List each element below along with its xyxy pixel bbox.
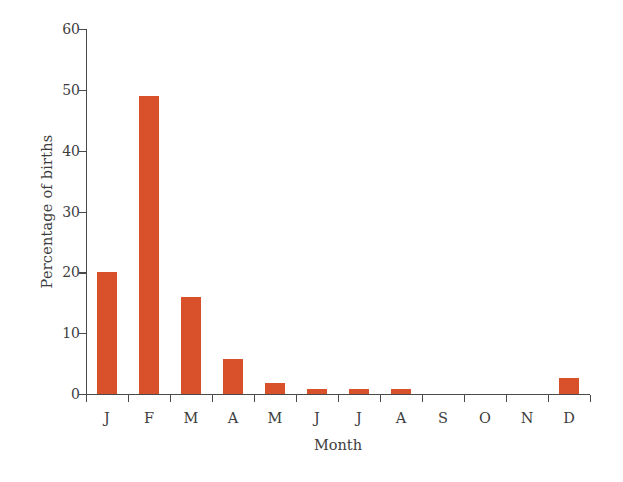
bar (139, 96, 159, 394)
y-tick-mark (79, 151, 86, 152)
y-tick-mark (79, 272, 86, 273)
y-tick-label: 30 (62, 204, 80, 220)
x-tick-mark (338, 395, 339, 402)
x-tick-mark (506, 395, 507, 402)
x-axis-title: Month (86, 437, 590, 453)
x-tick-mark (548, 395, 549, 402)
x-tick-mark (86, 395, 87, 402)
bar (223, 359, 243, 394)
x-tick-mark (128, 395, 129, 402)
bar (181, 297, 201, 394)
x-tick-label: S (438, 410, 448, 426)
bar (559, 378, 579, 394)
x-tick-label: F (144, 410, 154, 426)
x-tick-label: J (314, 410, 320, 426)
bar-chart-figure: Percentage of births 0102030405060 JFMAM… (0, 0, 623, 482)
x-tick-label: N (521, 410, 534, 426)
x-tick-mark (380, 395, 381, 402)
x-tick-label: J (104, 410, 110, 426)
y-tick-mark (79, 333, 86, 334)
y-tick-label: 60 (62, 21, 80, 37)
bar (265, 383, 285, 394)
x-tick-mark (296, 395, 297, 402)
x-tick-mark (170, 395, 171, 402)
y-axis-title: Percentage of births (32, 29, 62, 394)
x-tick-label: D (563, 410, 575, 426)
y-tick-mark (79, 29, 86, 30)
y-tick-label: 10 (62, 325, 80, 341)
x-tick-label: J (356, 410, 362, 426)
y-tick-mark (79, 212, 86, 213)
x-tick-label: A (228, 410, 238, 426)
bar (349, 389, 369, 394)
x-tick-label: M (268, 410, 283, 426)
y-tick-label: 50 (62, 82, 80, 98)
y-tick-label: 0 (71, 386, 80, 402)
x-tick-label: M (184, 410, 199, 426)
x-tick-mark (254, 395, 255, 402)
y-axis-line (86, 29, 87, 394)
x-tick-mark (464, 395, 465, 402)
y-tick-mark (79, 394, 86, 395)
x-tick-label: O (479, 410, 491, 426)
bar (97, 272, 117, 394)
y-tick-label: 20 (62, 264, 80, 280)
y-tick-mark (79, 90, 86, 91)
x-tick-label: A (396, 410, 406, 426)
bar (307, 389, 327, 394)
x-tick-mark (590, 395, 591, 402)
bar (391, 389, 411, 394)
x-tick-mark (212, 395, 213, 402)
plot-area: 0102030405060 JFMAMJJASOND (86, 29, 590, 394)
y-tick-label: 40 (62, 143, 80, 159)
x-tick-mark (422, 395, 423, 402)
